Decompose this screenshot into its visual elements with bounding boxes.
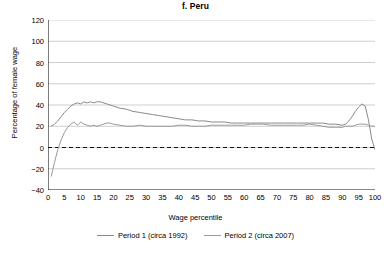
- legend-swatch-icon: [97, 235, 114, 236]
- y-axis-tick-label: 100: [18, 37, 44, 46]
- y-axis-tick-label: 20: [18, 122, 44, 131]
- y-axis-tick-label: −20: [18, 164, 44, 173]
- legend-label: Period 1 (circa 1992): [118, 231, 188, 240]
- legend-item-2[interactable]: Period 2 (circa 2007): [204, 231, 295, 240]
- x-axis-tick-label: 100: [365, 193, 385, 202]
- chart-figure: f. Peru Percentage of female wage 120100…: [0, 0, 391, 253]
- x-axis-label: Wage percentile: [0, 213, 391, 222]
- plot-area: [48, 20, 375, 190]
- y-axis-tick-labels: 120100806040200−20−40: [16, 20, 44, 190]
- chart-legend: Period 1 (circa 1992)Period 2 (circa 200…: [0, 231, 391, 240]
- y-axis-tick-label: 60: [18, 79, 44, 88]
- x-axis-tick-labels: 0510152025303540455055606570758085909510…: [48, 193, 375, 205]
- legend-swatch-icon: [204, 235, 221, 236]
- chart-title: f. Peru: [0, 1, 391, 11]
- legend-item-1[interactable]: Period 1 (circa 1992): [97, 231, 188, 240]
- y-axis-tick-label: 40: [18, 101, 44, 110]
- legend-label: Period 2 (circa 2007): [225, 231, 295, 240]
- plot-svg: [48, 20, 375, 190]
- y-axis-tick-label: 0: [18, 143, 44, 152]
- y-axis-tick-label: 80: [18, 58, 44, 67]
- y-axis-tick-label: 120: [18, 16, 44, 25]
- series-line-2: [51, 122, 375, 176]
